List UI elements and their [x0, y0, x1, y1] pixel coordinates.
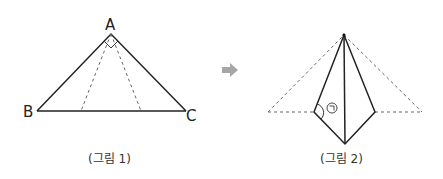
angle-label-giyeok [327, 103, 337, 113]
figure-2: (그림 2) [268, 33, 422, 166]
figure-1: A B C (그림 1) [23, 16, 196, 166]
figure-1-caption: (그림 1) [88, 152, 131, 166]
vertex-label-a: A [105, 16, 116, 34]
triangle-abc [37, 34, 186, 111]
apex-dot [342, 33, 345, 36]
vertex-label-b: B [23, 103, 33, 121]
arrow-right-icon [222, 63, 238, 77]
figure-2-caption: (그림 2) [320, 152, 363, 166]
vertex-label-c: C [186, 107, 196, 125]
fold-line-left [81, 34, 111, 111]
kite-center-line [344, 35, 345, 144]
diagram-canvas: A B C (그림 1) (그림 2) [0, 0, 443, 179]
fold-line-right [111, 34, 141, 111]
dashed-right-edge [344, 35, 422, 112]
dashed-left-edge [268, 35, 344, 112]
